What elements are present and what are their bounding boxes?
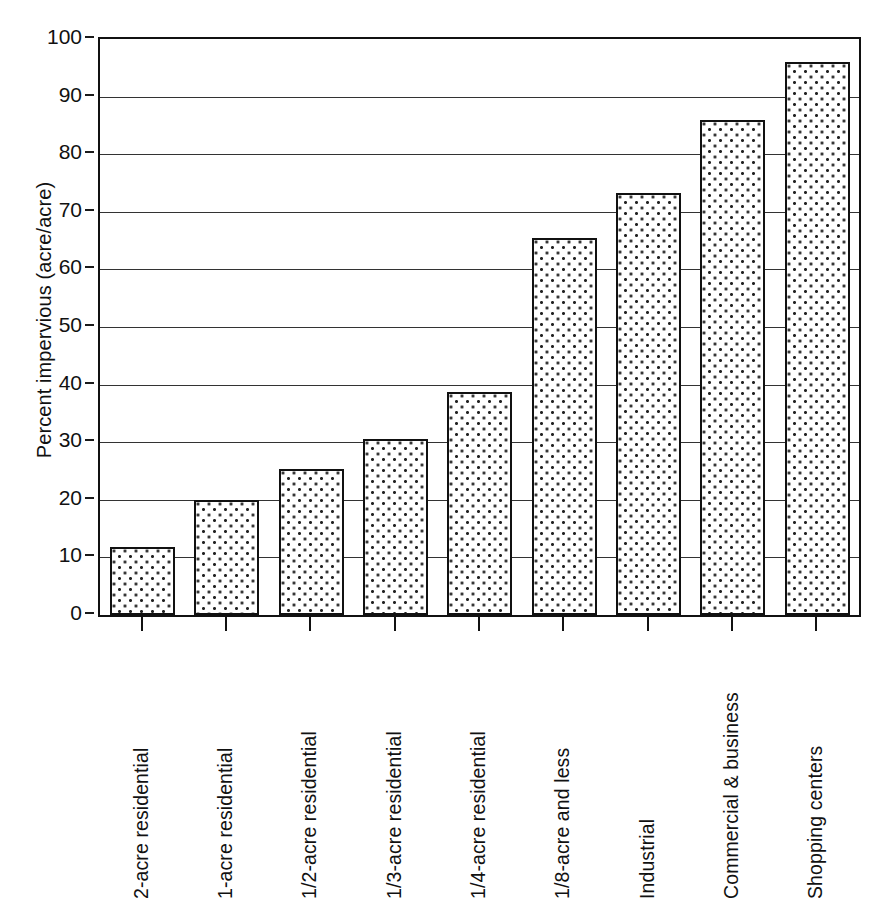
x-axis-category-label-text: Shopping centers [804, 746, 827, 899]
y-axis-tick-label: 0 [70, 601, 82, 625]
x-axis-category-label-text: 1/4-acre residential [466, 731, 489, 899]
x-axis-tick-marks [98, 615, 857, 633]
x-axis-category-label-text: 1/3-acre residential [382, 731, 405, 899]
bar [447, 392, 512, 615]
bar [279, 469, 344, 615]
x-axis-tick-mark [478, 615, 480, 631]
y-axis-tick-label: 70 [59, 198, 82, 222]
y-axis-tick-mark [85, 94, 94, 96]
y-axis-tick-mark [85, 266, 94, 268]
x-axis-tick-mark [225, 615, 227, 631]
x-axis-category-label-text: 1/8-acre and less [551, 748, 574, 899]
y-axis-tick-mark [85, 554, 94, 556]
x-axis-category-label-text: 1-acre residential [213, 748, 236, 899]
bar [110, 547, 175, 615]
x-axis-category-label-text: Commercial & business [719, 692, 742, 899]
y-axis-tick-label: 40 [59, 371, 82, 395]
y-axis-tick-label: 60 [59, 255, 82, 279]
x-axis-tick-mark [562, 615, 564, 631]
x-axis-category-label: Shopping centers [800, 636, 830, 899]
y-axis-tick-label: 90 [59, 83, 82, 107]
plot-area [98, 37, 861, 617]
y-axis-tick-mark [85, 151, 94, 153]
bar [700, 120, 765, 615]
x-axis-category-label: Commercial & business [716, 636, 746, 899]
y-axis-tick-mark [85, 324, 94, 326]
x-axis-tick-mark [394, 615, 396, 631]
bar-series [100, 39, 859, 615]
x-axis-category-label: 1-acre residential [210, 636, 240, 899]
x-axis-category-label: Industrial [632, 636, 662, 899]
x-axis-tick-mark [815, 615, 817, 631]
y-axis-tick-labels: 0102030405060708090100 [46, 0, 94, 899]
y-axis-tick-mark [85, 209, 94, 211]
bar [363, 439, 428, 615]
x-axis-category-label: 2-acre residential [126, 636, 156, 899]
bar [785, 62, 850, 615]
x-axis-tick-mark [731, 615, 733, 631]
bar [616, 193, 681, 615]
impervious-surface-bar-chart: Percent impervious (acre/acre) 010203040… [0, 0, 876, 899]
x-axis-category-label: 1/2-acre residential [294, 636, 324, 899]
x-axis-category-labels: 2-acre residential1-acre residential1/2-… [98, 636, 857, 899]
y-axis-tick-mark [85, 439, 94, 441]
x-axis-category-label: 1/8-acre and less [547, 636, 577, 899]
x-axis-category-label-text: 1/2-acre residential [298, 731, 321, 899]
x-axis-category-label: 1/4-acre residential [463, 636, 493, 899]
y-axis-tick-mark [85, 382, 94, 384]
y-axis-tick-mark [85, 612, 94, 614]
y-axis-tick-label: 100 [47, 25, 82, 49]
y-axis-tick-mark [85, 36, 94, 38]
y-axis-tick-mark [85, 497, 94, 499]
y-axis-tick-label: 80 [59, 140, 82, 164]
x-axis-category-label-text: Industrial [635, 819, 658, 899]
y-axis-tick-label: 30 [59, 428, 82, 452]
x-axis-category-label-text: 2-acre residential [129, 748, 152, 899]
y-axis-tick-label: 50 [59, 313, 82, 337]
y-axis-tick-label: 10 [59, 543, 82, 567]
bar [194, 500, 259, 615]
x-axis-category-label: 1/3-acre residential [379, 636, 409, 899]
x-axis-tick-mark [141, 615, 143, 631]
x-axis-tick-mark [647, 615, 649, 631]
x-axis-tick-mark [309, 615, 311, 631]
bar [532, 238, 597, 615]
y-axis-tick-label: 20 [59, 486, 82, 510]
